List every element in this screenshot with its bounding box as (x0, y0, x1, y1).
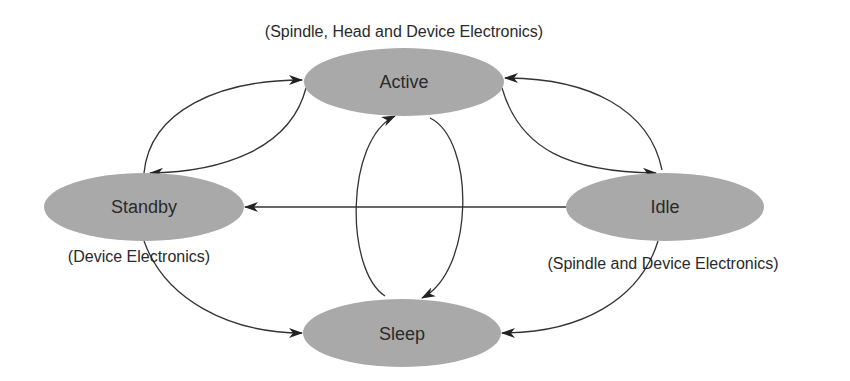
state-idle: Idle (Spindle and Device Electronics) (547, 173, 778, 272)
edge-active-to-sleep (422, 118, 463, 298)
state-sleep: Sleep (303, 299, 501, 367)
state-standby: Standby (Device Electronics) (44, 173, 244, 265)
idle-note: (Spindle and Device Electronics) (547, 255, 778, 272)
edge-idle-to-active (505, 78, 662, 170)
edge-active-to-idle (502, 88, 656, 173)
edge-active-to-standby (150, 88, 306, 173)
power-state-diagram: Active (Spindle, Head and Device Electro… (0, 0, 850, 381)
edge-sleep-to-active (356, 116, 395, 296)
state-active: Active (Spindle, Head and Device Electro… (265, 23, 543, 116)
active-note: (Spindle, Head and Device Electronics) (265, 23, 543, 40)
standby-label: Standby (111, 197, 177, 217)
active-label: Active (379, 72, 428, 92)
sleep-label: Sleep (379, 324, 425, 344)
edge-standby-to-active (144, 80, 302, 173)
standby-note: (Device Electronics) (68, 248, 210, 265)
idle-label: Idle (650, 197, 679, 217)
